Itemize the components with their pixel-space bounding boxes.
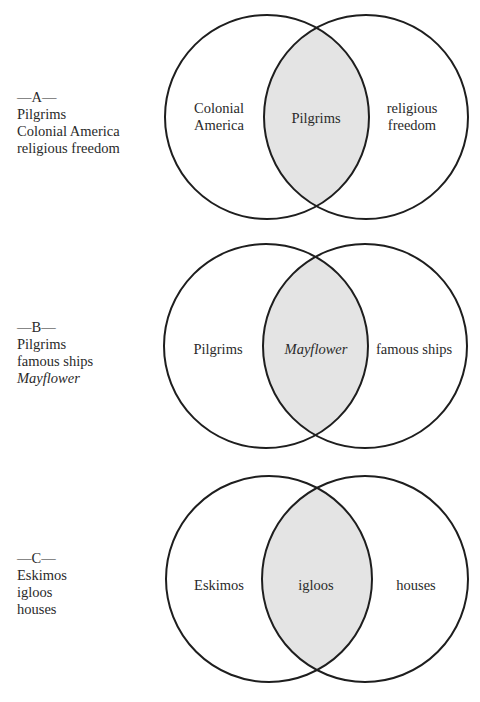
term-item: famous ships [17,353,93,370]
term-list-c: —C— Eskimos igloos houses [17,550,67,618]
term-item: Pilgrims [17,336,93,353]
term-item: houses [17,601,67,618]
term-item: Eskimos [17,567,67,584]
term-list-b: —B— Pilgrims famous ships Mayflower [17,319,93,387]
overlap-label-b: Mayflower [285,341,348,358]
term-item: igloos [17,584,67,601]
label-line: America [194,117,244,134]
label-line: religious [387,100,438,117]
label-line: freedom [387,117,438,134]
term-list-a: —A— Pilgrims Colonial America religious … [17,89,120,157]
left-circle-label-b: Pilgrims [193,341,242,358]
left-circle-label-a: Colonial America [194,100,244,134]
term-item: Pilgrims [17,106,120,123]
term-item: Mayflower [17,370,93,387]
term-list-heading: —C— [17,550,67,567]
term-list-heading: —A— [17,89,120,106]
overlap-label-c: igloos [298,577,333,594]
term-item: religious freedom [17,140,120,157]
right-circle-label-c: houses [396,577,435,594]
overlap-region-c [262,476,468,682]
right-circle-label-a: religious freedom [387,100,438,134]
label-line: Colonial [194,100,244,117]
term-item: Colonial America [17,123,120,140]
left-circle-label-c: Eskimos [194,577,244,594]
overlap-label-a: Pilgrims [291,110,340,127]
right-circle-label-b: famous ships [376,341,452,358]
term-list-heading: —B— [17,319,93,336]
